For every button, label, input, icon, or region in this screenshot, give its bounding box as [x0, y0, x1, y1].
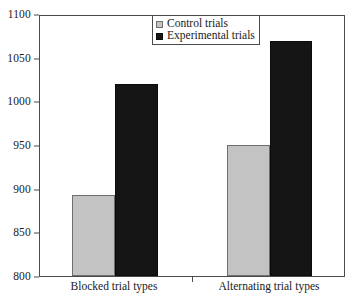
y-tick-label-1000: 1000	[7, 97, 31, 109]
x-group-label-blocked: Blocked trial types	[71, 281, 158, 293]
y-tick-label-800: 800	[13, 271, 31, 283]
bar-chart-figure: 1100 1050 1000 950 900 850 800 Blocked t…	[0, 0, 353, 307]
bar-blocked-experimental[interactable]	[115, 84, 158, 276]
y-tick-label-900: 900	[13, 184, 31, 196]
legend-item-experimental[interactable]: Experimental trials	[156, 30, 255, 42]
x-tick-mark-group-divider	[192, 277, 193, 282]
y-tick-label-950: 950	[13, 140, 31, 152]
bar-alternating-experimental[interactable]	[270, 41, 312, 276]
bar-blocked-control[interactable]	[72, 195, 115, 276]
control-swatch-icon	[156, 21, 163, 28]
plot-area	[39, 15, 345, 277]
legend-label-control: Control trials	[167, 18, 228, 30]
x-group-label-alternating: Alternating trial types	[219, 281, 320, 293]
y-tick-label-1100: 1100	[8, 9, 31, 21]
y-axis: 1100 1050 1000 950 900 850 800	[0, 0, 39, 307]
legend-item-control[interactable]: Control trials	[156, 18, 255, 30]
bar-alternating-control[interactable]	[227, 145, 270, 276]
y-tick-label-850: 850	[13, 228, 31, 240]
experimental-swatch-icon	[156, 33, 163, 40]
legend-label-experimental: Experimental trials	[167, 30, 255, 42]
y-tick-label-1050: 1050	[7, 53, 31, 65]
legend[interactable]: Control trials Experimental trials	[152, 15, 260, 45]
